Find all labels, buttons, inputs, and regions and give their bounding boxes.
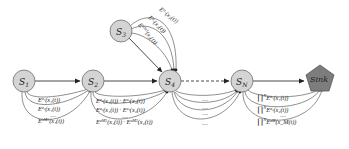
node-sink: Sink bbox=[306, 65, 334, 91]
svg-text:…: … bbox=[202, 110, 208, 116]
svg-text:Ea₁(x₁(t)) · Ea₂(x₂(t)): Ea₁(x₁(t)) · Ea₂(x₂(t)) bbox=[95, 97, 145, 105]
svg-text:Ea₂(x₁(t)): Ea₂(x₁(t)) bbox=[37, 105, 60, 113]
svg-text:Ea₁(x₁(t)): Ea₁(x₁(t)) bbox=[37, 96, 60, 104]
multi-hop-network-diagram: S1 S2 S3 S4 SN Sink Ea₁(x₁(t)) Ea₂(x₁(t)… bbox=[0, 0, 349, 149]
svg-text:∏NEa₁(x₁(t)): ∏NEa₁(x₁(t)) bbox=[257, 93, 288, 102]
labels-s3-s4: Ea₁(x₃(t)) Ea₂(x₃(t)) EaM3(x₃(t)) bbox=[136, 5, 180, 47]
svg-text:EaM1(x₁(t)): EaM1(x₁(t)) bbox=[37, 117, 64, 125]
node-s4: S4 bbox=[159, 70, 181, 92]
svg-text:EaM1(x₁(t)) · EaM2(x₂(t)): EaM1(x₁(t)) · EaM2(x₂(t)) bbox=[95, 118, 153, 126]
svg-text:Sink: Sink bbox=[310, 75, 328, 84]
edge-s3-s4 bbox=[129, 38, 162, 72]
curved-edges-s2-s4 bbox=[91, 90, 167, 119]
labels-s4-sn: … … … … bbox=[202, 96, 208, 126]
node-sn: SN bbox=[231, 70, 253, 92]
labels-sn-sink: ∏NEa₁(x₁(t)) ∏NEa₂(x₂(t)) … ∏NEaM(x_M(t)… bbox=[257, 93, 296, 126]
labels-s1-s2: Ea₁(x₁(t)) Ea₂(x₁(t)) … EaM1(x₁(t)) bbox=[37, 96, 64, 125]
svg-text:…: … bbox=[202, 96, 208, 102]
node-s2: S2 bbox=[82, 70, 104, 92]
labels-s2-s4: Ea₁(x₁(t)) · Ea₂(x₂(t)) Ea₃(x₁(t)) · Ea₄… bbox=[95, 97, 153, 126]
diagram-svg: S1 S2 S3 S4 SN Sink Ea₁(x₁(t)) Ea₂(x₁(t)… bbox=[0, 0, 349, 149]
svg-text:∏NEaM(x_M(t)): ∏NEaM(x_M(t)) bbox=[257, 117, 296, 126]
node-s1: S1 bbox=[13, 70, 35, 92]
svg-text:Ea₃(x₁(t)) · Ea₄(x₂(t)): Ea₃(x₁(t)) · Ea₄(x₂(t)) bbox=[95, 106, 145, 114]
svg-text:…: … bbox=[202, 120, 208, 126]
node-s3: S3 bbox=[110, 20, 132, 42]
